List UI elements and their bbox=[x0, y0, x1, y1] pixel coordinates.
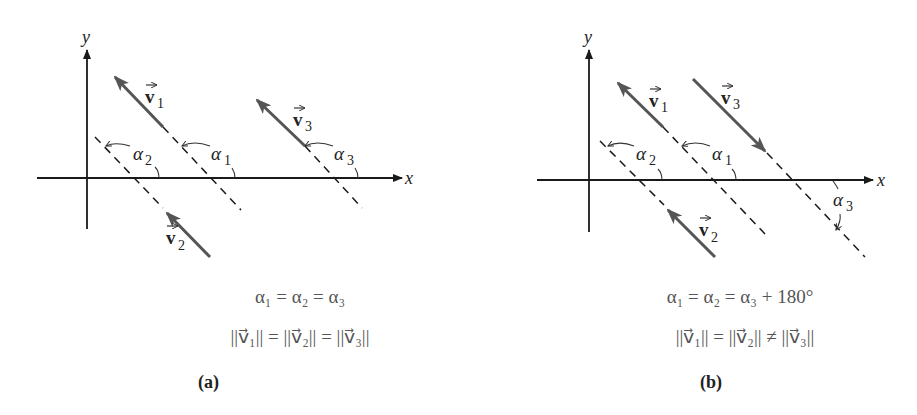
svg-text:2: 2 bbox=[145, 153, 152, 168]
panel-a-equation-magnitudes: ||v⃗₁|| = ||v⃗₂|| = ||v⃗₃|| bbox=[160, 325, 440, 348]
vector-v1-label: v 1 bbox=[649, 89, 668, 115]
svg-text:α: α bbox=[334, 143, 345, 164]
angle-alpha3: α 3 bbox=[305, 143, 358, 178]
panel-b-equation-angles: α₁ = α₂ = α₃ + 180° bbox=[600, 286, 880, 308]
panel-b-equation-magnitudes: ||v⃗₁|| = ||v⃗₂|| ≠ ||v⃗₃|| bbox=[610, 325, 880, 348]
svg-text:v: v bbox=[293, 109, 303, 130]
angle-alpha3: α 3 bbox=[833, 181, 853, 230]
svg-text:2: 2 bbox=[178, 238, 185, 253]
svg-text:v: v bbox=[721, 87, 731, 108]
svg-text:α: α bbox=[833, 189, 844, 210]
angle-alpha1: α 1 bbox=[682, 143, 736, 180]
y-axis-label: y bbox=[582, 27, 592, 47]
vector-v3-label: v 3 bbox=[293, 108, 312, 134]
vector-v1-label: v 1 bbox=[145, 85, 164, 111]
vector-v2-extension bbox=[600, 141, 664, 205]
svg-text:3: 3 bbox=[305, 119, 312, 134]
svg-text:3: 3 bbox=[733, 97, 740, 112]
svg-text:α: α bbox=[211, 143, 222, 164]
x-axis-label: x bbox=[876, 170, 885, 190]
panel-a: x y v 1 v 2 v 3 α 2 bbox=[37, 27, 413, 257]
panel-b-caption: (b) bbox=[700, 372, 722, 393]
x-axis-label: x bbox=[404, 168, 413, 188]
svg-text:2: 2 bbox=[711, 230, 718, 245]
svg-text:v: v bbox=[649, 90, 659, 111]
vector-v1-extension bbox=[163, 127, 241, 210]
angle-alpha2: α 2 bbox=[106, 143, 159, 178]
vector-diagrams: x y v 1 v 2 v 3 α 2 bbox=[0, 0, 917, 415]
svg-text:3: 3 bbox=[846, 199, 853, 214]
svg-text:v: v bbox=[699, 219, 709, 240]
svg-text:3: 3 bbox=[347, 153, 354, 168]
panel-a-equation-angles: α₁ = α₂ = α₃ bbox=[200, 286, 400, 308]
svg-text:1: 1 bbox=[661, 100, 668, 115]
svg-text:α: α bbox=[133, 143, 144, 164]
svg-text:2: 2 bbox=[649, 153, 656, 168]
svg-text:1: 1 bbox=[157, 96, 164, 111]
panel-a-caption: (a) bbox=[198, 372, 219, 393]
svg-text:1: 1 bbox=[224, 153, 231, 168]
angle-alpha2: α 2 bbox=[608, 143, 662, 180]
angle-alpha1: α 1 bbox=[182, 143, 235, 178]
svg-text:1: 1 bbox=[725, 153, 732, 168]
vector-v2-extension bbox=[95, 137, 163, 208]
svg-text:α: α bbox=[636, 143, 647, 164]
svg-text:v: v bbox=[166, 227, 176, 248]
svg-text:α: α bbox=[712, 143, 723, 164]
svg-text:v: v bbox=[145, 86, 155, 107]
panel-b: x y v 1 v 2 v 3 α 2 bbox=[537, 27, 885, 257]
y-axis-label: y bbox=[80, 27, 90, 47]
vector-v2-label: v 2 bbox=[699, 218, 718, 245]
